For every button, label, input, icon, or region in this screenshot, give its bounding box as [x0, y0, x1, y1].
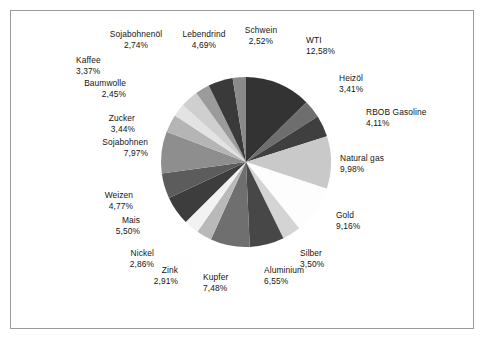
pie-slice-label-value: 5,50% [116, 226, 140, 237]
pie-slice-label-value: 6,55% [264, 276, 304, 287]
pie-slice-label-value: 3,37% [76, 66, 101, 77]
pie-slice-label-value: 9,16% [336, 221, 360, 232]
pie-slice-label: Gold9,16% [336, 210, 360, 231]
pie-slice-label: Mais5,50% [116, 215, 140, 236]
pie-slice-label: Zink2,91% [154, 265, 178, 286]
pie-slice-label: Schwein2,52% [245, 25, 277, 46]
pie-slice-label-name: Natural gas [340, 153, 384, 164]
pie-slice-label-value: 2,45% [84, 89, 126, 100]
pie-slice-label: RBOB Gasoline4,11% [366, 107, 426, 128]
pie-slice-label-name: RBOB Gasoline [366, 107, 426, 118]
pie-slice-label-value: 2,91% [154, 276, 178, 287]
pie-slice-label-value: 4,11% [366, 118, 426, 129]
pie-slice-label: Weizen4,77% [105, 190, 133, 211]
pie-chart-plot-area [0, 0, 489, 341]
pie-slice-label-name: WTI [306, 35, 335, 46]
pie-slice-label: Aluminium6,55% [264, 265, 304, 286]
pie-slice-label-value: 2,52% [245, 36, 277, 47]
pie-slice-label: Heizöl3,41% [339, 73, 363, 94]
pie-slice-label-name: Aluminium [264, 265, 304, 276]
pie-slice-label-name: Heizöl [339, 73, 363, 84]
pie-slice-label-name: Sojabohnenöl [110, 29, 162, 40]
pie-slice-label-name: Nickel [130, 248, 154, 259]
pie-slice-label-name: Silber [300, 248, 324, 259]
pie-slice-label: Zucker3,44% [109, 113, 135, 134]
pie-slice-label-value: 12,58% [306, 46, 335, 57]
pie-slice-label: Baumwolle2,45% [84, 78, 126, 99]
pie-slice-label-value: 9,98% [340, 164, 384, 175]
pie-slice-label-name: Sojabohnen [102, 137, 148, 148]
pie-slice-label-name: Kupfer [203, 272, 228, 283]
pie-slice-label-name: Baumwolle [84, 78, 126, 89]
pie-slice-label-value: 4,77% [105, 201, 133, 212]
pie-slice-label-name: Kaffee [76, 55, 101, 66]
pie-slice-label: Lebendrind4,69% [183, 29, 226, 50]
pie-slice-label: Nickel2,86% [130, 248, 154, 269]
pie-slice-label: Sojabohnenöl2,74% [110, 29, 162, 50]
pie-slice-label-value: 3,44% [109, 124, 135, 135]
pie-slice-label: Sojabohnen7,97% [102, 137, 148, 158]
pie-slice-label-name: Gold [336, 210, 360, 221]
pie-slice-label-name: Zucker [109, 113, 135, 124]
pie-slice-label-value: 7,97% [102, 148, 148, 159]
pie-slice-label-name: Zink [154, 265, 178, 276]
pie-slice-label: Kupfer7,48% [203, 272, 228, 293]
pie-slice-label-name: Weizen [105, 190, 133, 201]
pie-slice-label-name: Schwein [245, 25, 277, 36]
pie-slice-label: WTI12,58% [306, 35, 335, 56]
pie-slice-label-name: Lebendrind [183, 29, 226, 40]
pie-slice-label-value: 2,86% [130, 259, 154, 270]
screenshot-root: WTI12,58%Heizöl3,41%RBOB Gasoline4,11%Na… [0, 0, 489, 341]
pie-slice-label-value: 3,41% [339, 84, 363, 95]
pie-chart-svg [0, 0, 489, 341]
pie-slice-label: Natural gas9,98% [340, 153, 384, 174]
pie-slice-label-value: 2,74% [110, 40, 162, 51]
pie-slice-label: Kaffee3,37% [76, 55, 101, 76]
pie-slice-label-name: Mais [116, 215, 140, 226]
pie-slice-label-value: 7,48% [203, 283, 228, 294]
pie-slice-label-value: 4,69% [183, 40, 226, 51]
